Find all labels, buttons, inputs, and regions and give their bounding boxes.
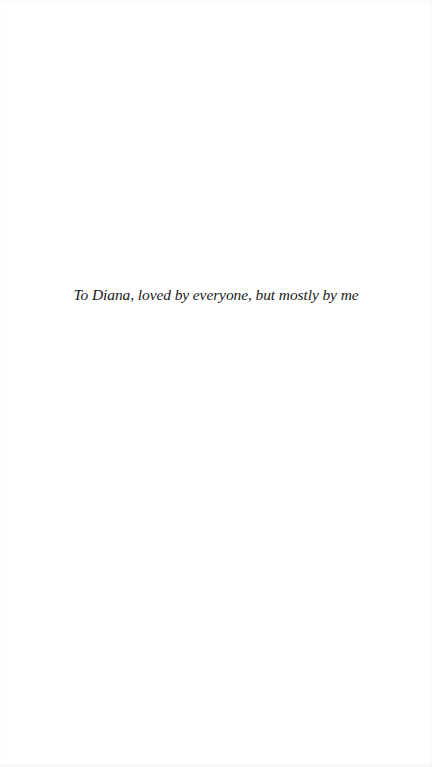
book-page: To Diana, loved by everyone, but mostly …: [0, 0, 432, 767]
dedication-text: To Diana, loved by everyone, but mostly …: [0, 285, 432, 305]
